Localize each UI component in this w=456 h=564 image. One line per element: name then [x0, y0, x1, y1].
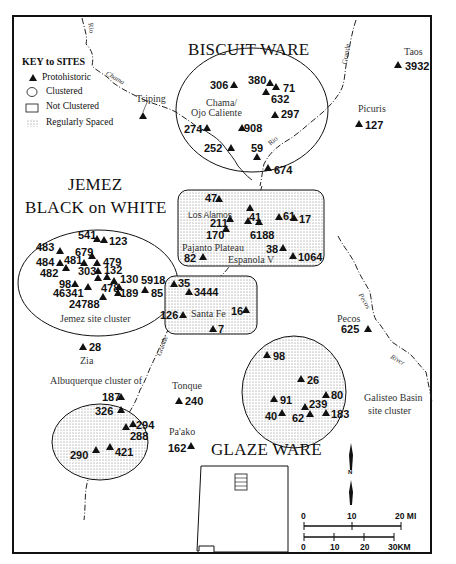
- site-380: 380: [248, 74, 266, 86]
- scale-km-30: 30KM: [388, 542, 411, 552]
- site-239: 239: [309, 398, 327, 410]
- region-title-glaze-ware: GLAZE WARE: [211, 440, 322, 460]
- site-3444: 3444: [194, 286, 218, 298]
- site-85: 85: [151, 287, 163, 299]
- site-252: 252: [204, 142, 222, 154]
- key-item-protohistoric: Protohistoric: [42, 72, 91, 82]
- scale-mi-0: 0: [301, 511, 306, 521]
- site-35: 35: [178, 277, 190, 289]
- site-326: 326: [95, 405, 113, 417]
- site-61: 61: [283, 210, 295, 222]
- site-17: 17: [299, 213, 311, 225]
- site-240: 240: [185, 395, 203, 407]
- site-632: 632: [271, 93, 289, 105]
- site-674: 674: [274, 164, 292, 176]
- north-label: N: [348, 469, 352, 475]
- site-80: 80: [331, 389, 343, 401]
- site-126: 126: [160, 309, 178, 321]
- site-211: 211: [210, 217, 228, 229]
- site-41: 41: [249, 211, 261, 223]
- key-title: KEY to SITES: [22, 56, 85, 67]
- site-24788: 24788: [69, 298, 100, 310]
- site-183: 183: [331, 408, 349, 420]
- site-303: 303: [78, 265, 96, 277]
- scale-mi-10: 10: [347, 511, 356, 521]
- key-item-clustered: Clustered: [46, 86, 82, 96]
- scale-km-0: 0: [301, 542, 306, 552]
- site-98-galisteo: 98: [273, 350, 285, 362]
- site-38: 38: [266, 243, 278, 255]
- site-47: 47: [205, 192, 217, 204]
- key-circle-icon: [27, 88, 37, 97]
- scale-km-10: 10: [330, 542, 339, 552]
- site-908: 908: [244, 122, 262, 134]
- site-62: 62: [292, 412, 304, 424]
- site-40: 40: [265, 410, 277, 422]
- site-478: 478: [101, 282, 119, 294]
- river-label-rio-chama-1: Rio: [86, 22, 96, 33]
- site-162: 162: [168, 442, 186, 454]
- site-306: 306: [210, 79, 228, 91]
- place-taos: Taos: [404, 46, 423, 57]
- site-127: 127: [365, 119, 383, 131]
- site-421: 421: [115, 446, 133, 458]
- scale-mi-20: 20 MI: [395, 511, 416, 521]
- site-7: 7: [218, 323, 224, 335]
- site-187: 187: [102, 391, 120, 403]
- site-288: 288: [130, 430, 148, 442]
- site-297: 297: [281, 108, 299, 120]
- place-espanola-valley: Espanola V: [228, 254, 274, 265]
- place-tonque: Tonque: [172, 380, 202, 391]
- site-6188: 6188: [250, 229, 274, 241]
- key-dots-icon: [26, 120, 38, 127]
- site-541: 541: [78, 229, 96, 241]
- site-5918: 5918: [141, 274, 165, 286]
- place-tsiping: Tsiping: [136, 93, 166, 104]
- site-82: 82: [184, 252, 196, 264]
- site-91: 91: [280, 394, 292, 406]
- site-482: 482: [40, 267, 58, 279]
- site-130: 130: [120, 273, 138, 285]
- site-189: 189: [120, 287, 138, 299]
- site-290: 290: [70, 449, 88, 461]
- place-ojo-caliente: Ojo Caliente: [191, 107, 242, 118]
- place-jemez-site-cluster: Jemez site cluster: [60, 313, 131, 324]
- place-galisteo-basin: Galisteo Basin: [364, 392, 423, 403]
- site-170: 170: [206, 229, 224, 241]
- region-title-biscuit-ware: BISCUIT WARE: [188, 40, 310, 60]
- archaeological-site-map: KEY to SITES Protohistoric Clustered Not…: [0, 0, 456, 564]
- site-274: 274: [184, 123, 202, 135]
- site-625: 625: [341, 323, 359, 335]
- key-item-regularly-spaced: Regularly Spaced: [46, 117, 113, 127]
- site-1064: 1064: [298, 251, 322, 263]
- place-paako: Pa'ako: [169, 426, 195, 437]
- new-mexico-inset: [197, 466, 288, 552]
- site-3932: 3932: [405, 60, 429, 72]
- place-albuquerque-cluster: Albuquerque cluster of: [50, 375, 142, 386]
- site-16: 16: [231, 305, 243, 317]
- region-title-black-on-white: BLACK on WHITE: [25, 198, 167, 218]
- scale-km-20: 20: [360, 542, 369, 552]
- place-santa-fe: Santa Fe: [191, 308, 226, 319]
- site-26: 26: [307, 374, 319, 386]
- site-59: 59: [251, 142, 263, 154]
- place-picuris: Picuris: [358, 103, 386, 114]
- site-28: 28: [89, 341, 101, 353]
- rio-chama-lower: [204, 130, 252, 180]
- region-title-jemez: JEMEZ: [68, 175, 122, 195]
- north-arrow: [349, 443, 353, 470]
- key-rectangle-icon: [26, 104, 38, 112]
- place-zia: Zia: [80, 355, 93, 366]
- key-triangle-icon: [29, 74, 37, 81]
- place-galisteo-site-cluster: site cluster: [368, 405, 411, 416]
- site-123: 123: [109, 235, 127, 247]
- site-483: 483: [36, 241, 54, 253]
- key-item-not-clustered: Not Clustered: [46, 101, 99, 111]
